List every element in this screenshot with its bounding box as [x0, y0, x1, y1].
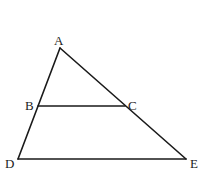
- label-A: A: [54, 33, 64, 48]
- label-B: B: [25, 98, 34, 113]
- label-D: D: [5, 156, 14, 171]
- label-C: C: [128, 98, 137, 113]
- triangle-diagram: A B C D E: [0, 0, 219, 178]
- label-E: E: [190, 156, 198, 171]
- segment-AE: [60, 48, 186, 159]
